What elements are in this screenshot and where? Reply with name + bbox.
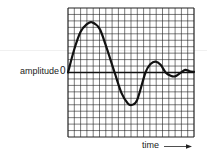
zero-tick-label: 0 [60, 65, 66, 76]
waveform-chart [0, 0, 207, 156]
x-axis-label: time [142, 140, 159, 150]
y-axis-label: amplitude [20, 66, 59, 76]
time-arrow-icon [164, 144, 192, 148]
